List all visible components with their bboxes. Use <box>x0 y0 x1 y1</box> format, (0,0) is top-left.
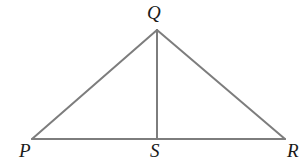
vertex-label-s: S <box>150 141 160 160</box>
geometry-figure-canvas: Q P S R <box>0 0 308 166</box>
vertex-label-q: Q <box>147 3 161 22</box>
segment-pq <box>32 30 157 139</box>
vertex-label-r: R <box>287 141 299 160</box>
segment-qr <box>157 30 285 139</box>
vertex-label-p: P <box>19 141 31 160</box>
triangle-segments-group <box>32 30 285 139</box>
